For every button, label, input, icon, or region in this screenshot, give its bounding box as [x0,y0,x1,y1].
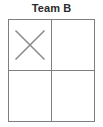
grid-board [8,19,95,122]
cell-row-1-col-1[interactable] [52,71,95,122]
cell-row-0-col-0[interactable] [9,20,52,71]
team-b-grid-panel: Team B [0,0,103,127]
page-title: Team B [0,1,103,15]
cell-row-1-col-0[interactable] [9,71,52,122]
x-mark-icon [14,29,46,61]
cell-row-0-col-1[interactable] [52,20,95,71]
